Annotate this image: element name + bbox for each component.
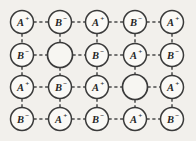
ion-charge-superscript: + [25,15,29,23]
ion-symbol: A [166,82,174,93]
vacancy-circle [123,75,148,100]
ion-charge-superscript: + [63,112,67,120]
lattice-ion-B-r2-c1: B− [49,76,72,99]
lattice-ion-A-r0-c4: A+ [161,11,184,34]
lattice-ion-B-r3-c4: B− [161,108,184,131]
ion-charge-superscript: + [100,15,104,23]
ion-symbol: A [54,114,62,125]
ion-symbol: A [16,82,24,93]
ion-symbol: A [91,82,99,93]
lattice-ion-A-r2-c4: A+ [161,76,184,99]
ion-symbol: B [91,114,99,125]
lattice-ion-B-r3-c0: B− [11,108,34,131]
ion-charge-superscript: − [63,15,67,23]
ion-symbol: B [16,50,24,61]
ion-charge-superscript: − [175,48,179,56]
ion-charge-superscript: − [63,80,67,88]
ion-charge-superscript: + [175,15,179,23]
ion-symbol: A [129,50,137,61]
ion-charge-superscript: − [175,112,179,120]
ion-symbol: B [166,114,174,125]
lattice-ion-B-r1-c2: B− [86,44,109,67]
lattice-ion-A-r3-c3: A+ [124,108,147,131]
ion-charge-superscript: − [25,48,29,56]
ion-symbol: B [54,17,62,28]
ion-symbol: B [16,114,24,125]
ion-symbol: A [16,17,24,28]
lattice-ion-A-r3-c1: A+ [49,108,72,131]
ion-charge-superscript: + [175,80,179,88]
ion-symbol: A [91,17,99,28]
lattice-ion-A-r1-c3: A+ [124,44,147,67]
ion-symbol: B [54,82,62,93]
ion-charge-superscript: + [100,80,104,88]
lattice-ion-A-r0-c0: A+ [11,11,34,34]
lattice-vacancy-r2-c3 [123,75,148,100]
site-layer: A+B−A+B−A+B−B−A+B−A+B−A+A+B−A+B−A+B− [11,11,184,131]
ion-charge-superscript: − [100,112,104,120]
vacancy-circle [48,43,73,68]
ion-charge-superscript: − [100,48,104,56]
lattice-ion-B-r1-c0: B− [11,44,34,67]
lattice-ion-A-r0-c2: A+ [86,11,109,34]
ion-symbol: B [166,50,174,61]
lattice-ion-B-r1-c4: B− [161,44,184,67]
ion-charge-superscript: − [138,15,142,23]
ionic-lattice-figure: A+B−A+B−A+B−B−A+B−A+B−A+A+B−A+B−A+B− [0,0,196,141]
ion-charge-superscript: + [138,48,142,56]
lattice-ion-A-r2-c2: A+ [86,76,109,99]
lattice-ion-B-r0-c3: B− [124,11,147,34]
lattice-ion-B-r0-c1: B− [49,11,72,34]
ion-charge-superscript: + [138,112,142,120]
ion-symbol: B [91,50,99,61]
ion-symbol: A [166,17,174,28]
bond-layer [22,22,172,119]
ion-symbol: A [129,114,137,125]
lattice-diagram: A+B−A+B−A+B−B−A+B−A+B−A+A+B−A+B−A+B− [0,0,196,141]
ion-charge-superscript: + [25,80,29,88]
ion-symbol: B [129,17,137,28]
ion-charge-superscript: − [25,112,29,120]
lattice-vacancy-r1-c1 [48,43,73,68]
lattice-ion-B-r3-c2: B− [86,108,109,131]
lattice-ion-A-r2-c0: A+ [11,76,34,99]
